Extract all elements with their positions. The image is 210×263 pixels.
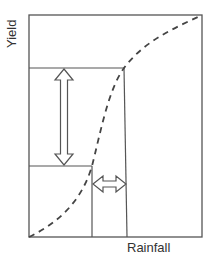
yield-rainfall-diagram: Yield Rainfall xyxy=(0,0,210,263)
y-axis-label: Yield xyxy=(4,20,19,48)
upper-rainfall-line xyxy=(124,68,127,237)
rainfall-change-arrow xyxy=(93,176,126,192)
yield-response-curve xyxy=(29,15,202,237)
yield-change-arrow xyxy=(55,69,73,165)
plot-frame xyxy=(29,15,202,237)
x-axis-label: Rainfall xyxy=(127,240,170,255)
